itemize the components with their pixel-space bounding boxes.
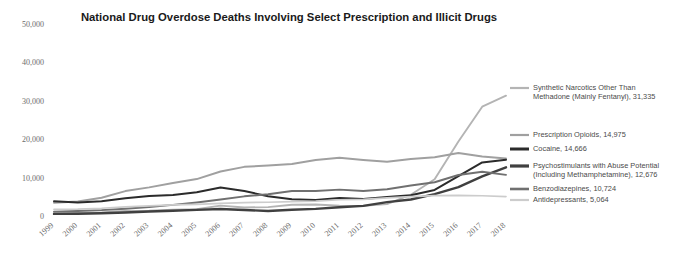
x-axis-tick-label: 2004 [156, 221, 174, 239]
y-axis-tick-label: 20,000 [22, 135, 44, 144]
x-axis-tick-label: 2018 [489, 221, 507, 239]
legend-item-cocaine[interactable]: Cocaine, 14,666 [510, 144, 587, 153]
y-axis-tick-label: 30,000 [22, 97, 44, 106]
x-axis-tick-label: 2005 [180, 221, 198, 239]
x-axis-tick-label: 2013 [370, 221, 388, 239]
x-axis-tick-label: 2009 [275, 221, 293, 239]
x-axis-tick-label: 2011 [323, 221, 341, 238]
legend-label-prescription-opioids: Prescription Opioids, 14,975 [533, 130, 626, 139]
y-axis-tick-label: 10,000 [22, 174, 44, 183]
legend-item-synthetic-narcotics[interactable]: Synthetic Narcotics Other ThanMethadone … [510, 83, 655, 101]
y-axis-tick-label: 40,000 [22, 58, 44, 67]
overdose-deaths-line-chart: National Drug Overdose Deaths Involving … [0, 0, 681, 256]
legend-item-benzodiazepines[interactable]: Benzodiazepines, 10,724 [510, 184, 616, 193]
x-axis-tick-label: 2006 [204, 221, 222, 239]
x-axis-tick-label: 2014 [394, 221, 412, 239]
legend-item-prescription-opioids[interactable]: Prescription Opioids, 14,975 [510, 130, 626, 139]
y-axis-tick-label: 50,000 [22, 20, 44, 29]
x-axis-tick-label: 2015 [418, 221, 436, 239]
x-axis-tick-label: 2012 [346, 221, 364, 239]
chart-title-group: National Drug Overdose Deaths Involving … [81, 11, 497, 23]
x-axis-tick-label: 2000 [61, 221, 79, 239]
y-axis: 010,00020,00030,00040,00050,000 [22, 20, 44, 221]
legend-label-psychostimulants: Psychostimulants with Abuse Potential [533, 161, 659, 170]
x-axis-tick-label: 2010 [299, 221, 317, 239]
legend-label-benzodiazepines: Benzodiazepines, 10,724 [533, 184, 616, 193]
x-axis-tick-label: 2003 [132, 221, 150, 239]
x-axis-tick-label: 2007 [227, 221, 245, 239]
x-axis-tick-label: 2016 [442, 221, 460, 239]
x-axis-tick-label: 2002 [109, 221, 127, 239]
x-axis-tick-label: 2001 [85, 221, 103, 239]
page-title: National Drug Overdose Deaths Involving … [81, 11, 497, 23]
x-axis-tick-label: 1999 [37, 221, 55, 239]
chart-legend: Synthetic Narcotics Other ThanMethadone … [510, 83, 659, 204]
legend-item-antidepressants[interactable]: Antidepressants, 5,064 [510, 195, 609, 204]
y-axis-tick-label: 0 [40, 212, 44, 221]
x-axis-tick-label: 2017 [465, 221, 483, 239]
series-lines [54, 96, 506, 214]
legend-item-psychostimulants[interactable]: Psychostimulants with Abuse Potential(In… [510, 161, 659, 179]
legend-label-synthetic-narcotics: Methadone (Mainly Fentanyl), 31,335 [533, 92, 655, 101]
legend-label-psychostimulants: (Including Methamphetamine), 12,676 [533, 170, 657, 179]
legend-label-synthetic-narcotics: Synthetic Narcotics Other Than [533, 83, 636, 92]
legend-label-cocaine: Cocaine, 14,666 [533, 144, 587, 153]
chart-container: National Drug Overdose Deaths Involving … [0, 0, 681, 256]
x-axis-tick-label: 2008 [251, 221, 269, 239]
legend-label-antidepressants: Antidepressants, 5,064 [533, 195, 609, 204]
x-axis: 1999200020012002200320042005200620072008… [37, 221, 507, 239]
